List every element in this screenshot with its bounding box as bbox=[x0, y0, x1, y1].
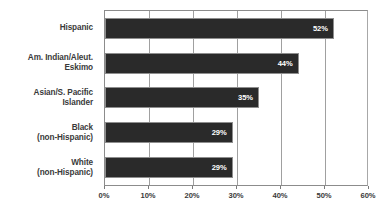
bar-row: 44% bbox=[105, 46, 367, 81]
bar-value-label: 35% bbox=[238, 93, 253, 102]
bars-layer: 52% 44% 35% 29% 29% bbox=[105, 11, 367, 185]
bar-white-non-hispanic: 29% bbox=[105, 157, 233, 178]
axis-tick-mark bbox=[236, 186, 237, 189]
axis-tick-label: 10% bbox=[141, 191, 156, 200]
bar-chart: Hispanic Am. Indian/Aleut. Eskimo Asian/… bbox=[0, 0, 392, 214]
bar-hispanic: 52% bbox=[105, 18, 334, 39]
bar-value-label: 29% bbox=[212, 163, 227, 172]
axis-tick-label: 50% bbox=[317, 191, 332, 200]
bar-row: 29% bbox=[105, 115, 367, 150]
bar-value-label: 52% bbox=[313, 24, 328, 33]
bar-am-indian-aleut-eskimo: 44% bbox=[105, 53, 299, 74]
category-label-asian-s-pacific-islander: Asian/S. Pacific Islander bbox=[0, 80, 99, 115]
axis-tick-mark bbox=[104, 186, 105, 189]
bar-asian-s-pacific-islander: 35% bbox=[105, 87, 259, 108]
axis-tick-label: 30% bbox=[229, 191, 244, 200]
category-label-hispanic: Hispanic bbox=[0, 10, 99, 45]
axis-tick-mark bbox=[324, 186, 325, 189]
axis-tick-mark bbox=[280, 186, 281, 189]
category-axis: Hispanic Am. Indian/Aleut. Eskimo Asian/… bbox=[0, 10, 99, 186]
plot-area: 52% 44% 35% 29% 29% bbox=[104, 10, 368, 186]
axis-tick-label: 0% bbox=[99, 191, 110, 200]
bar-value-label: 29% bbox=[212, 128, 227, 137]
category-label-white-non-hispanic: White (non-Hispanic) bbox=[0, 151, 99, 186]
category-label-black-non-hispanic: Black (non-Hispanic) bbox=[0, 116, 99, 151]
category-label-am-indian-aleut-eskimo: Am. Indian/Aleut. Eskimo bbox=[0, 45, 99, 80]
bar-row: 29% bbox=[105, 150, 367, 185]
axis-tick-label: 20% bbox=[185, 191, 200, 200]
bar-value-label: 44% bbox=[278, 59, 293, 68]
axis-tick-mark bbox=[368, 186, 369, 189]
axis-tick-label: 40% bbox=[273, 191, 288, 200]
value-axis: 0%10%20%30%40%50%60% bbox=[104, 186, 368, 208]
axis-tick-mark bbox=[192, 186, 193, 189]
axis-tick-mark bbox=[148, 186, 149, 189]
bar-row: 35% bbox=[105, 81, 367, 116]
bar-black-non-hispanic: 29% bbox=[105, 122, 233, 143]
axis-tick-label: 60% bbox=[361, 191, 376, 200]
bar-row: 52% bbox=[105, 11, 367, 46]
